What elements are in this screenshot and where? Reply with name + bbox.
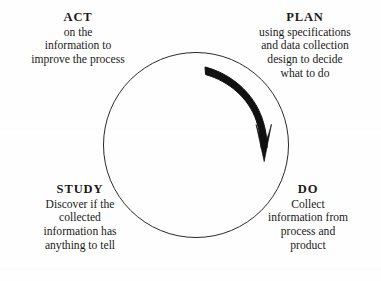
- quadrant-do-line: information from: [240, 211, 376, 225]
- quadrant-study: STUDY Discover if the collected informat…: [10, 182, 150, 252]
- quadrant-study-body: Discover if the collected information ha…: [10, 198, 150, 253]
- quadrant-act-title: ACT: [6, 10, 150, 25]
- quadrant-do-body: Collect information from process and pro…: [240, 198, 376, 253]
- quadrant-act-body: on the information to improve the proces…: [6, 26, 150, 67]
- quadrant-do: DO Collect information from process and …: [240, 182, 376, 252]
- quadrant-do-line: process and: [240, 225, 376, 239]
- quadrant-plan-line: using specifications: [232, 26, 378, 40]
- quadrant-plan-line: design to decide: [232, 53, 378, 67]
- quadrant-act-line: improve the process: [6, 53, 150, 67]
- quadrant-act-line: information to: [6, 39, 150, 53]
- quadrant-do-line: Collect: [240, 198, 376, 212]
- quadrant-plan: PLAN using specifications and data colle…: [232, 10, 378, 80]
- quadrant-study-line: collected: [10, 211, 150, 225]
- quadrant-plan-line: what to do: [232, 67, 378, 81]
- pdsa-cycle-diagram: ACT on the information to improve the pr…: [0, 0, 381, 281]
- quadrant-act-line: on the: [6, 26, 150, 40]
- scan-artifact-band: [0, 268, 381, 270]
- quadrant-do-title: DO: [240, 182, 376, 197]
- quadrant-study-line: information has: [10, 225, 150, 239]
- quadrant-study-line: Discover if the: [10, 198, 150, 212]
- quadrant-act: ACT on the information to improve the pr…: [6, 10, 150, 67]
- quadrant-do-line: product: [240, 239, 376, 253]
- quadrant-plan-body: using specifications and data collection…: [232, 26, 378, 81]
- quadrant-study-title: STUDY: [10, 182, 150, 197]
- quadrant-plan-line: and data collection: [232, 39, 378, 53]
- quadrant-study-line: anything to tell: [10, 239, 150, 253]
- quadrant-plan-title: PLAN: [232, 10, 378, 25]
